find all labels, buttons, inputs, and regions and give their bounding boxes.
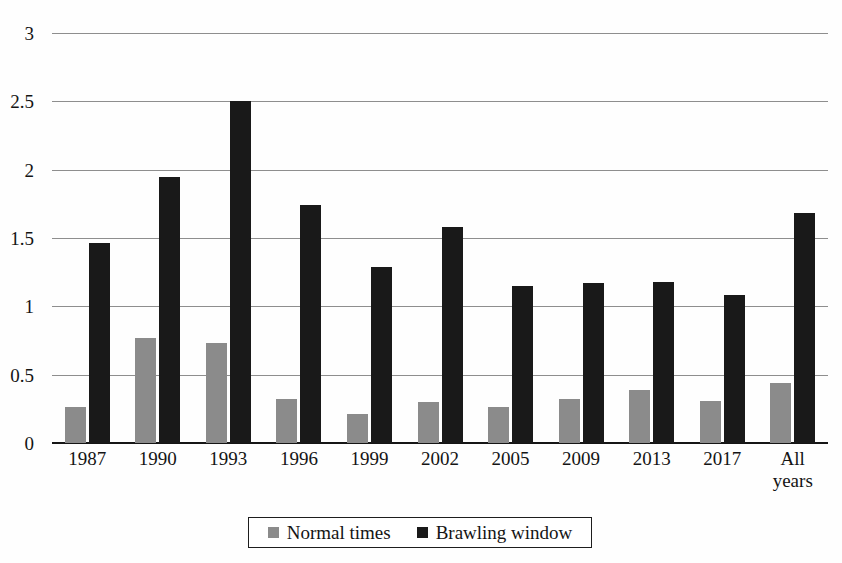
x-axis-tick-label: All years xyxy=(757,448,828,492)
x-axis-tick-label: 2009 xyxy=(546,448,617,492)
bar-normal-times[interactable] xyxy=(276,399,297,443)
bar-normal-times[interactable] xyxy=(206,343,227,443)
bar-normal-times[interactable] xyxy=(488,407,509,443)
bar-brawling-window[interactable] xyxy=(442,227,463,443)
x-axis-labels: 1987199019931996199920022005200920132017… xyxy=(52,448,828,492)
bar-group xyxy=(334,33,405,443)
bar-normal-times[interactable] xyxy=(65,407,86,443)
bar-brawling-window[interactable] xyxy=(300,205,321,443)
bar-group xyxy=(123,33,194,443)
bar-brawling-window[interactable] xyxy=(583,283,604,443)
y-axis-tick-label: 0 xyxy=(0,434,34,453)
x-axis-tick-label: 1996 xyxy=(264,448,335,492)
bar-normal-times[interactable] xyxy=(347,414,368,443)
y-axis-tick-label: 2 xyxy=(0,160,34,179)
legend-entry[interactable]: Normal times xyxy=(268,523,391,542)
bar-brawling-window[interactable] xyxy=(230,101,251,443)
bar-brawling-window[interactable] xyxy=(653,282,674,443)
legend-label: Brawling window xyxy=(436,523,573,542)
bar-normal-times[interactable] xyxy=(135,338,156,443)
bar-normal-times[interactable] xyxy=(559,399,580,443)
x-axis-tick-label: 2013 xyxy=(616,448,687,492)
bar-brawling-window[interactable] xyxy=(89,243,110,443)
bar-group xyxy=(475,33,546,443)
bar-group xyxy=(264,33,335,443)
bar-normal-times[interactable] xyxy=(629,390,650,443)
y-axis-tick-label: 1 xyxy=(0,297,34,316)
x-axis-tick-label: 1990 xyxy=(123,448,194,492)
bar-group xyxy=(52,33,123,443)
bar-normal-times[interactable] xyxy=(700,401,721,443)
gray-swatch-icon xyxy=(268,527,279,538)
x-axis-tick-label: 1993 xyxy=(193,448,264,492)
bar-groups-container xyxy=(52,33,828,443)
bar-chart-figure: 00.511.522.53 19871990199319961999200220… xyxy=(0,0,842,563)
x-axis-tick-label: 1999 xyxy=(334,448,405,492)
y-axis-tick-label: 3 xyxy=(0,24,34,43)
legend-entry[interactable]: Brawling window xyxy=(417,523,573,542)
x-axis-tick-label: 2005 xyxy=(475,448,546,492)
bar-brawling-window[interactable] xyxy=(512,286,533,443)
bar-group xyxy=(616,33,687,443)
bar-group xyxy=(546,33,617,443)
legend-label: Normal times xyxy=(287,523,391,542)
bar-brawling-window[interactable] xyxy=(724,295,745,443)
bar-brawling-window[interactable] xyxy=(159,177,180,444)
bar-group xyxy=(193,33,264,443)
y-axis-tick-label: 2.5 xyxy=(0,92,34,111)
bar-group xyxy=(687,33,758,443)
y-axis-tick-label: 0.5 xyxy=(0,365,34,384)
y-axis-tick-label: 1.5 xyxy=(0,229,34,248)
chart-legend: Normal timesBrawling window xyxy=(248,517,592,548)
bar-group xyxy=(757,33,828,443)
x-axis-tick-label: 2017 xyxy=(687,448,758,492)
bar-brawling-window[interactable] xyxy=(371,267,392,443)
black-swatch-icon xyxy=(417,527,428,538)
bar-brawling-window[interactable] xyxy=(794,213,815,443)
bar-normal-times[interactable] xyxy=(770,383,791,443)
bar-normal-times[interactable] xyxy=(418,402,439,443)
x-axis-tick-label: 1987 xyxy=(52,448,123,492)
x-axis-tick-label: 2002 xyxy=(405,448,476,492)
bar-group xyxy=(405,33,476,443)
